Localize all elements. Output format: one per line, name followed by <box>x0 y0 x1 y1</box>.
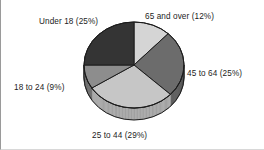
slice-label-45-to-64: 45 to 64 (25%) <box>187 70 242 78</box>
slice-label-65-and-over: 65 and over (12%) <box>145 13 214 21</box>
slice-label-25-to-44: 25 to 44 (29%) <box>92 132 147 140</box>
slice-label-18-to-24: 18 to 24 (9%) <box>14 84 64 92</box>
pie-slice-under-18 <box>84 22 134 65</box>
pie-chart-figure: 65 and over (12%) 45 to 64 (25%) 25 to 4… <box>0 0 264 150</box>
slice-label-under-18: Under 18 (25%) <box>39 18 98 26</box>
